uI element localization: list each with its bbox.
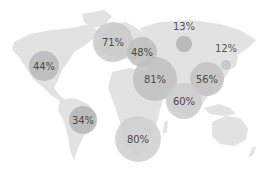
bubble-south-asia: 60% (166, 83, 202, 119)
bubble-label: 81% (144, 74, 166, 85)
bubble-circle (176, 36, 192, 52)
bubble-label: 44% (33, 61, 55, 72)
bubble-label: 34% (72, 115, 94, 126)
bubble-circle (221, 60, 231, 70)
bubble-label: 13% (173, 21, 195, 32)
bubble-label: 12% (215, 43, 237, 54)
bubble-north-america: 44% (29, 51, 59, 81)
bubble-south-america: 34% (69, 106, 97, 134)
bubble-northern-europe: 71% (93, 22, 133, 62)
bubble-label: 60% (173, 96, 195, 107)
land-new-zealand (248, 146, 256, 158)
land-madagascar (163, 120, 168, 134)
land-southeast-asia (204, 104, 236, 116)
world-bubble-map: 44%71%48%13%12%81%56%60%34%80% (0, 0, 268, 176)
bubble-africa: 80% (115, 116, 161, 162)
bubble-label: 80% (127, 134, 149, 145)
land-australia (212, 116, 248, 146)
bubble-label: 71% (102, 37, 124, 48)
bubble-label: 48% (131, 47, 153, 58)
bubble-label: 56% (196, 74, 218, 85)
